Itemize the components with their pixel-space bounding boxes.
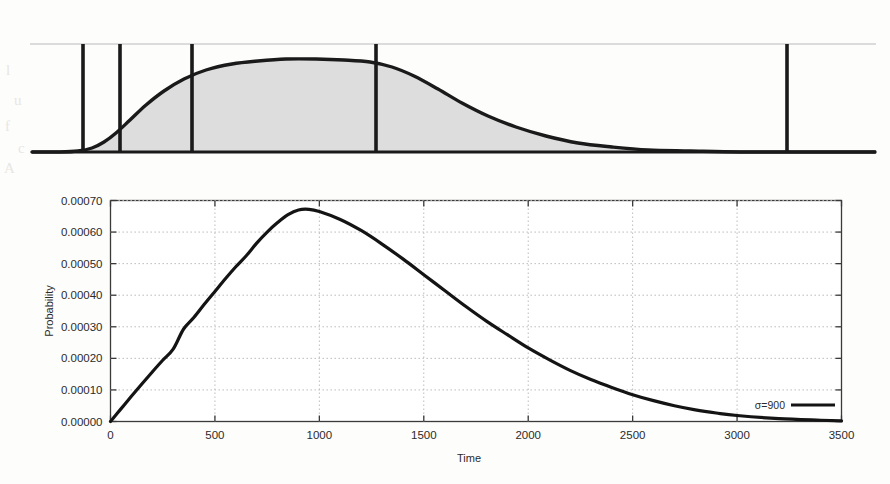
y-tick-label: 0.00070 (61, 195, 103, 207)
x-tick-label: 500 (205, 429, 224, 441)
plot-frame (111, 201, 842, 422)
probability-chart: 0.000000.000100.000200.000300.000400.000… (43, 195, 854, 465)
top-panel-shaded-area (32, 59, 875, 152)
y-axis-tick-labels: 0.000000.000100.000200.000300.000400.000… (61, 195, 103, 428)
y-tick-label: 0.00010 (61, 384, 103, 396)
x-tick-label: 3500 (829, 429, 855, 441)
y-tick-label: 0.00030 (61, 321, 103, 333)
x-axis-tick-labels: 0500100015002000250030003500 (107, 429, 854, 441)
figure-svg: 0.000000.000100.000200.000300.000400.000… (0, 0, 890, 484)
x-tick-label: 1000 (307, 429, 333, 441)
scanned-page: l u f c A 0.000000.000100.000200.0003 (0, 0, 890, 484)
x-tick-label: 2000 (515, 429, 541, 441)
y-tick-label: 0.00050 (61, 258, 103, 270)
x-tick-label: 0 (107, 429, 113, 441)
y-tick-label: 0.00060 (61, 226, 103, 238)
top-panel (30, 44, 876, 152)
x-axis-title: Time (457, 452, 481, 464)
x-tick-label: 1500 (411, 429, 437, 441)
y-axis-title: Probability (43, 285, 55, 337)
y-tick-label: 0.00000 (61, 416, 103, 428)
legend-label-sigma-900: σ=900 (755, 399, 785, 411)
x-tick-label: 3000 (724, 429, 750, 441)
figure-container: 0.000000.000100.000200.000300.000400.000… (0, 0, 890, 484)
y-tick-label: 0.00040 (61, 289, 103, 301)
x-tick-label: 2500 (620, 429, 646, 441)
y-tick-label: 0.00020 (61, 352, 103, 364)
